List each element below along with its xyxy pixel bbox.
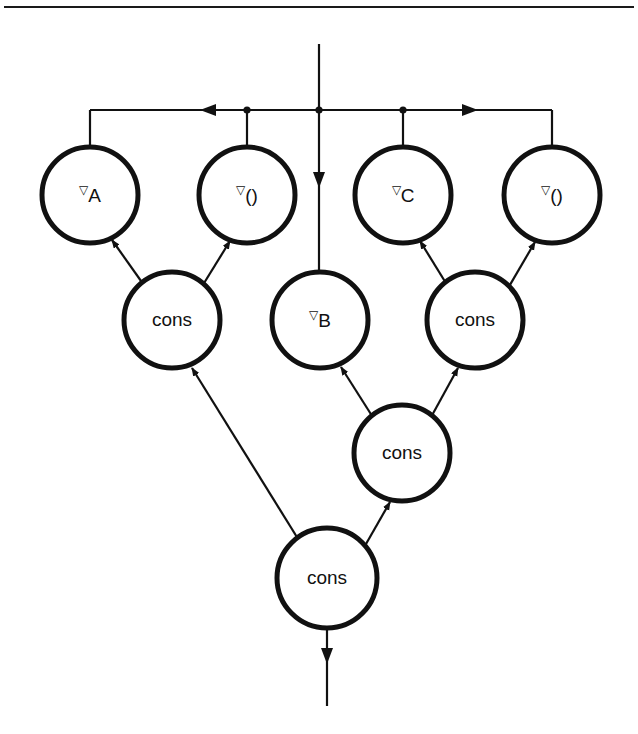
node-cons-right[interactable]: cons — [427, 272, 523, 368]
bus-right-arrowhead — [462, 104, 478, 116]
node-label-text: B — [318, 310, 331, 331]
node-nabla-c[interactable]: ▽C — [355, 147, 451, 243]
node-label-text: C — [401, 185, 415, 206]
node-cons-mid[interactable]: cons — [354, 405, 450, 501]
node-nabla-b[interactable]: ▽B — [272, 272, 368, 368]
node-label-text: () — [245, 185, 258, 206]
node-nabla-paren-1[interactable]: ▽() — [199, 147, 295, 243]
edge-cons-bottom-to-cons-left — [192, 368, 300, 542]
node-label-cons-right: cons — [455, 309, 495, 330]
bus-junction-dot-center — [315, 106, 322, 113]
input-arrowhead — [313, 172, 325, 188]
node-label-cons-left: cons — [152, 309, 192, 330]
edge-cons-right-to-nabla-paren-2 — [507, 242, 535, 290]
node-label-cons-mid: cons — [382, 442, 422, 463]
node-nabla-paren-2[interactable]: ▽() — [504, 147, 600, 243]
node-label-text: () — [550, 185, 563, 206]
output-arrowhead — [321, 648, 333, 664]
dataflow-graph: ▽A ▽() ▽C ▽() cons — [0, 0, 638, 734]
bus-left-arrowhead — [200, 104, 216, 116]
diagram-canvas: ▽A ▽() ▽C ▽() cons — [0, 0, 638, 734]
node-cons-bottom[interactable]: cons — [277, 528, 377, 628]
node-label-text: A — [88, 185, 101, 206]
edge-cons-mid-to-nabla-b — [341, 367, 374, 419]
node-nabla-a[interactable]: ▽A — [42, 147, 138, 243]
edge-cons-left-to-nabla-paren-1 — [201, 241, 230, 288]
input-arrow — [313, 44, 325, 272]
node-label-cons-bottom: cons — [307, 567, 347, 588]
edge-cons-mid-to-cons-right — [430, 368, 458, 419]
output-arrow — [321, 628, 333, 706]
node-cons-left[interactable]: cons — [124, 272, 220, 368]
distribution-bus — [90, 104, 552, 148]
